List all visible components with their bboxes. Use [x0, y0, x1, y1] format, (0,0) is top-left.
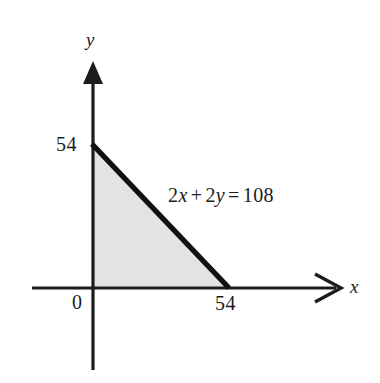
equation-plus-sign: +	[188, 184, 206, 206]
equation-coef-y: 2	[205, 184, 215, 206]
y-intercept-tick-label: 54	[56, 134, 77, 154]
equation-coef-x: 2	[168, 184, 178, 206]
y-axis-label: y	[86, 30, 94, 49]
x-intercept-tick-label: 54	[215, 293, 236, 313]
y-axis-arrowhead-icon	[83, 61, 103, 84]
constraint-equation-label: 2x+2y=108	[168, 185, 274, 205]
x-axis-label: x	[350, 277, 358, 296]
equation-equals-sign: =	[225, 184, 243, 206]
equation-constant: 108	[243, 184, 274, 206]
origin-tick-label: 0	[72, 292, 83, 312]
graph-figure: y x 54 0 54 2x+2y=108	[0, 0, 380, 383]
equation-var-y: y	[216, 184, 225, 206]
equation-var-x: x	[178, 184, 187, 206]
